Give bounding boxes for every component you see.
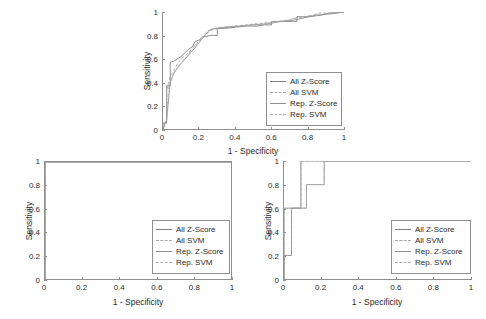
y-axis-title-bottom-right: Sensitivity	[263, 202, 273, 240]
legend-line-swatch-icon	[156, 262, 172, 263]
y-tick-label: 0	[257, 276, 279, 285]
x-tick-mark	[396, 277, 397, 280]
legend-item[interactable]: Rep. SVM	[395, 257, 466, 268]
x-tick-label: 0	[42, 283, 46, 292]
legend-item[interactable]: All Z-Score	[156, 224, 225, 235]
y-tick-mark	[283, 185, 286, 186]
y-axis-title-top: Sensitivity	[142, 52, 152, 90]
x-tick-label: 0.8	[189, 283, 200, 292]
legend-line-swatch-icon	[156, 229, 172, 230]
y-tick-mark	[44, 232, 47, 233]
legend-bottom-left: All Z-ScoreAll SVMRep. Z-ScoreRep. SVM	[152, 220, 230, 274]
x-tick-label: 1	[342, 133, 346, 142]
y-tick-mark	[162, 106, 165, 107]
legend-item-label: All SVM	[415, 235, 443, 246]
y-tick-mark	[44, 280, 47, 281]
x-tick-label: 0.4	[114, 283, 125, 292]
legend-bottom-right: All Z-ScoreAll SVMRep. Z-ScoreRep. SVM	[391, 220, 471, 274]
y-tick-mark	[162, 36, 165, 37]
x-tick-label: 0.2	[315, 283, 326, 292]
legend-item-label: All SVM	[176, 235, 204, 246]
x-tick-label: 0.6	[151, 283, 162, 292]
legend-line-swatch-icon	[395, 240, 411, 241]
legend-item-label: Rep. Z-Score	[415, 246, 463, 257]
legend-line-swatch-icon	[395, 262, 411, 263]
x-tick-mark	[119, 277, 120, 280]
legend-item[interactable]: Rep. SVM	[156, 257, 225, 268]
legend-line-swatch-icon	[395, 251, 411, 252]
legend-item[interactable]: All SVM	[395, 235, 466, 246]
x-tick-mark	[198, 127, 199, 130]
x-tick-mark	[82, 277, 83, 280]
x-tick-mark	[194, 277, 195, 280]
legend-item-label: Rep. SVM	[290, 109, 326, 120]
roc-figure: 00.20.40.60.8100.20.40.60.81 1 - Specifi…	[0, 0, 486, 319]
legend-line-swatch-icon	[270, 103, 286, 104]
x-tick-mark	[321, 277, 322, 280]
y-tick-label: 0.2	[257, 252, 279, 261]
y-tick-label: 0.2	[18, 252, 40, 261]
y-tick-mark	[44, 161, 47, 162]
legend-item-label: Rep. SVM	[415, 257, 451, 268]
legend-item-label: Rep. Z-Score	[290, 98, 338, 109]
x-tick-mark	[308, 127, 309, 130]
legend-item[interactable]: All Z-Score	[270, 76, 337, 87]
x-tick-label: 1	[469, 283, 473, 292]
x-tick-label: 0.8	[302, 133, 313, 142]
y-tick-label: 1	[18, 157, 40, 166]
y-tick-mark	[283, 232, 286, 233]
y-tick-label: 0.8	[136, 31, 158, 40]
y-tick-label: 0.8	[257, 180, 279, 189]
legend-item-label: Rep. Z-Score	[176, 246, 224, 257]
x-tick-mark	[235, 127, 236, 130]
y-tick-mark	[162, 59, 165, 60]
legend-item-label: All Z-Score	[290, 76, 330, 87]
legend-line-swatch-icon	[395, 229, 411, 230]
legend-line-swatch-icon	[156, 251, 172, 252]
x-tick-label: 0.6	[266, 133, 277, 142]
x-axis-title-bottom-left: 1 - Specificity	[113, 297, 164, 307]
x-tick-label: 0.2	[76, 283, 87, 292]
subplot-top: 00.20.40.60.8100.20.40.60.81 1 - Specifi…	[0, 0, 486, 160]
legend-item[interactable]: All SVM	[270, 87, 337, 98]
legend-item[interactable]: Rep. SVM	[270, 109, 337, 120]
legend-item-label: All SVM	[290, 87, 318, 98]
y-tick-mark	[44, 185, 47, 186]
x-tick-mark	[271, 127, 272, 130]
x-tick-label: 0.2	[193, 133, 204, 142]
y-tick-mark	[283, 209, 286, 210]
x-tick-label: 1	[230, 283, 234, 292]
x-tick-label: 0	[160, 133, 164, 142]
y-tick-label: 0	[136, 126, 158, 135]
x-axis-title-top: 1 - Specificity	[228, 146, 279, 156]
legend-line-swatch-icon	[156, 240, 172, 241]
legend-item[interactable]: All Z-Score	[395, 224, 466, 235]
x-tick-mark	[344, 127, 345, 130]
x-tick-label: 0.8	[428, 283, 439, 292]
y-tick-label: 1	[136, 8, 158, 17]
x-tick-mark	[433, 277, 434, 280]
legend-item[interactable]: All SVM	[156, 235, 225, 246]
legend-item[interactable]: Rep. Z-Score	[395, 246, 466, 257]
x-tick-label: 0.4	[229, 133, 240, 142]
y-tick-mark	[44, 256, 47, 257]
y-tick-mark	[283, 280, 286, 281]
x-tick-mark	[471, 277, 472, 280]
x-tick-mark	[358, 277, 359, 280]
y-tick-mark	[162, 130, 165, 131]
x-tick-label: 0	[281, 283, 285, 292]
y-tick-label: 0	[18, 276, 40, 285]
legend-item-label: All Z-Score	[176, 224, 216, 235]
y-tick-mark	[162, 12, 165, 13]
x-tick-label: 0.4	[353, 283, 364, 292]
y-tick-label: 1	[257, 157, 279, 166]
y-tick-label: 0.8	[18, 180, 40, 189]
x-tick-mark	[232, 277, 233, 280]
y-tick-mark	[283, 161, 286, 162]
x-tick-mark	[157, 277, 158, 280]
subplot-bottom-right: 00.20.40.60.8100.20.40.60.81 1 - Specifi…	[243, 160, 486, 319]
x-axis-title-bottom-right: 1 - Specificity	[352, 297, 403, 307]
y-tick-mark	[44, 209, 47, 210]
legend-item[interactable]: Rep. Z-Score	[156, 246, 225, 257]
legend-item[interactable]: Rep. Z-Score	[270, 98, 337, 109]
